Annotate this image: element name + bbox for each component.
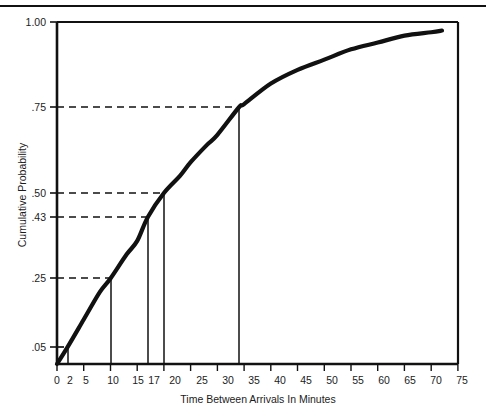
x-axis-tick-labels: 0 2 5 10 15 17 20 25 30 35 40 45 50 55 6… <box>54 374 468 386</box>
x-tick-label-50: 50 <box>326 374 338 386</box>
x-tick-label-45: 45 <box>300 374 312 386</box>
x-tick-label-60: 60 <box>378 374 390 386</box>
x-tick-label-15: 15 <box>132 374 144 386</box>
x-tick-label-5: 5 <box>83 374 89 386</box>
y-tick-label-.50: .50 <box>31 187 46 199</box>
reference-lines-vertical <box>68 107 239 364</box>
chart-figure: 1.00 .75 .50 .43 .25 .05 0 2 5 10 15 17 … <box>0 0 486 416</box>
x-tick-label-17: 17 <box>148 374 160 386</box>
cumulative-probability-chart: 1.00 .75 .50 .43 .25 .05 0 2 5 10 15 17 … <box>0 0 486 416</box>
x-tick-label-20: 20 <box>169 374 181 386</box>
x-tick-label-75: 75 <box>456 374 468 386</box>
x-tick-label-25: 25 <box>196 374 208 386</box>
y-tick-label-.05: .05 <box>31 341 46 353</box>
x-tick-label-10: 10 <box>107 374 119 386</box>
x-tick-label-70: 70 <box>430 374 442 386</box>
x-tick-label-40: 40 <box>274 374 286 386</box>
y-axis-tick-labels: 1.00 .75 .50 .43 .25 .05 <box>26 16 47 353</box>
cumulative-probability-curve <box>57 31 442 364</box>
x-tick-label-65: 65 <box>404 374 416 386</box>
y-tick-label-.43: .43 <box>31 211 46 223</box>
y-tick-label-.75: .75 <box>31 101 46 113</box>
x-tick-label-2: 2 <box>67 374 73 386</box>
x-axis-title: Time Between Arrivals In Minutes <box>180 393 335 405</box>
x-tick-label-30: 30 <box>222 374 234 386</box>
x-tick-label-55: 55 <box>352 374 364 386</box>
x-tick-label-0: 0 <box>54 374 60 386</box>
y-axis-title: Cumulative Probability <box>16 142 28 247</box>
x-tick-label-35: 35 <box>248 374 260 386</box>
y-tick-label-1.00: 1.00 <box>26 16 47 28</box>
y-tick-label-.25: .25 <box>31 272 46 284</box>
